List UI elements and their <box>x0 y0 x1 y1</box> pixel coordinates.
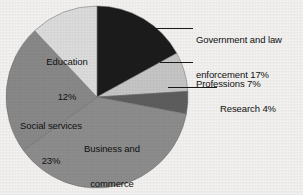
slice-label-business-line2: commerce <box>74 178 150 190</box>
pie-chart: Government and law enforcement 17% Profe… <box>0 0 303 195</box>
slice-label-business-line1: Business and <box>74 143 150 155</box>
slice-label-research: Research 4% <box>220 80 302 138</box>
slice-label-research-line1: Research 4% <box>220 103 302 115</box>
slice-label-government-line1: Government and law <box>196 34 302 46</box>
slice-label-education-line1: Education <box>30 56 104 68</box>
slice-label-business-and-commerce: Business and commerce 37% <box>74 120 150 195</box>
